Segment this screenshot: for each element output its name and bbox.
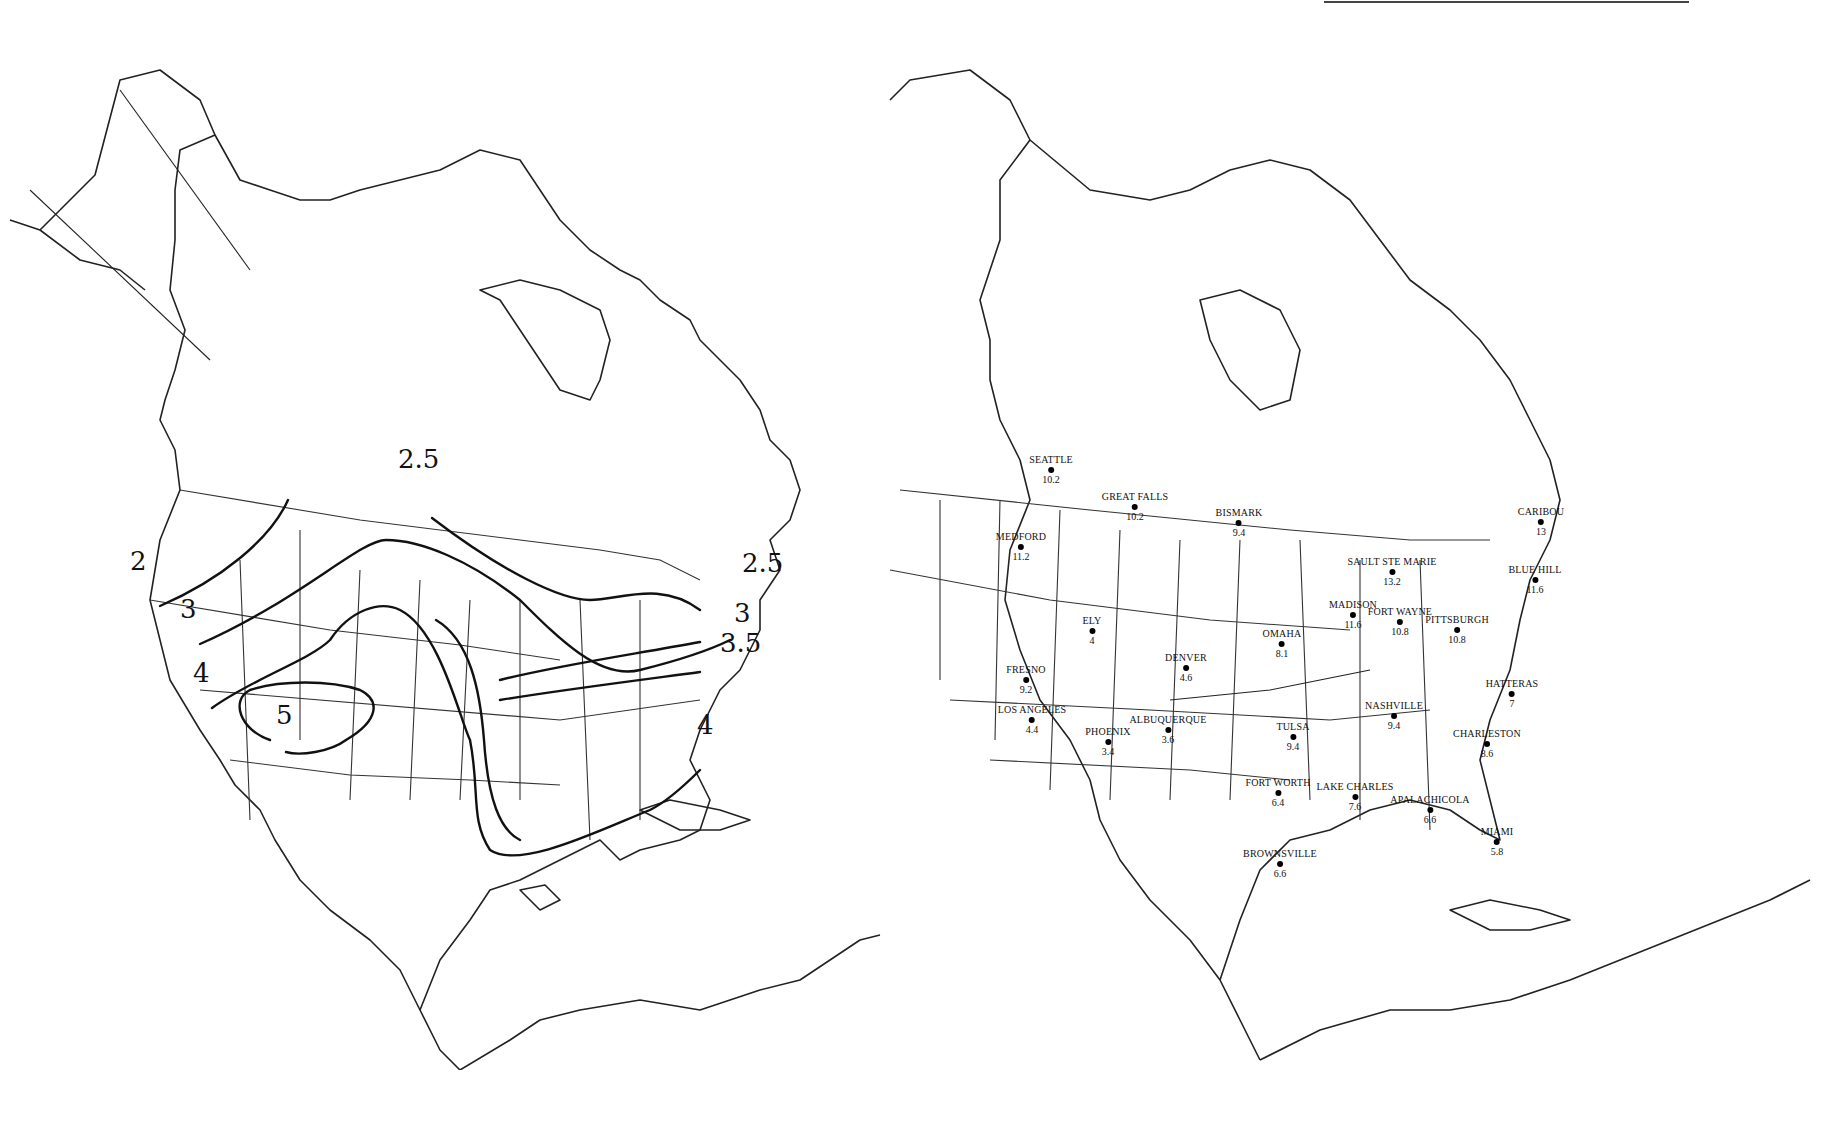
station-value: 4 — [1082, 635, 1101, 647]
station-value: 11.6 — [1508, 584, 1561, 596]
station-marker: BLUE HILL11.6 — [1508, 564, 1561, 596]
station-name: CARIBOU — [1518, 506, 1564, 518]
station-dot-icon — [1048, 467, 1054, 473]
station-marker: LOS ANGELES4.4 — [998, 704, 1067, 736]
station-dot-icon — [1236, 520, 1242, 526]
station-value: 13 — [1518, 526, 1564, 538]
station-marker: SEATTLE10.2 — [1029, 454, 1073, 486]
station-marker: SAULT STE MARIE13.2 — [1347, 556, 1436, 588]
station-dot-icon — [1018, 544, 1024, 550]
station-value: 10.2 — [1029, 474, 1073, 486]
station-name: SAULT STE MARIE — [1347, 556, 1436, 568]
station-name: MIAMI — [1481, 826, 1514, 838]
station-marker: BISMARK9.4 — [1216, 507, 1263, 539]
station-name: CHARLESTON — [1453, 728, 1521, 740]
station-marker: CARIBOU13 — [1518, 506, 1564, 538]
station-dot-icon — [1389, 569, 1395, 575]
station-name: FRESNO — [1006, 664, 1046, 676]
station-dot-icon — [1275, 790, 1281, 796]
station-name: NASHVILLE — [1365, 700, 1423, 712]
station-value: 4.6 — [1165, 672, 1207, 684]
station-marker: BROWNSVILLE6.6 — [1243, 848, 1317, 880]
contour-label-3-5: 3.5 — [720, 630, 761, 656]
station-value: 9.2 — [1006, 684, 1046, 696]
contour-label-4-west: 4 — [193, 660, 210, 686]
station-value: 9.4 — [1216, 527, 1263, 539]
station-name: BISMARK — [1216, 507, 1263, 519]
station-dot-icon — [1352, 794, 1358, 800]
station-name: SEATTLE — [1029, 454, 1073, 466]
station-marker: MIAMI5.8 — [1481, 826, 1514, 858]
station-dot-icon — [1132, 504, 1138, 510]
station-dot-icon — [1484, 741, 1490, 747]
station-dot-icon — [1089, 628, 1095, 634]
station-value: 10.8 — [1368, 626, 1432, 638]
station-value: 4.4 — [998, 724, 1067, 736]
station-marker: NASHVILLE9.4 — [1365, 700, 1423, 732]
station-dot-icon — [1183, 665, 1189, 671]
station-value: 6.6 — [1243, 868, 1317, 880]
top-rule-line — [1324, 1, 1689, 3]
station-dot-icon — [1532, 577, 1538, 583]
contour-label-3-west: 3 — [180, 596, 197, 622]
station-name: PITTSBURGH — [1425, 614, 1489, 626]
station-marker: LAKE CHARLES7.6 — [1316, 781, 1393, 813]
contour-label-5: 5 — [276, 702, 293, 728]
station-value: 10.8 — [1425, 634, 1489, 646]
station-marker: GREAT FALLS10.2 — [1102, 491, 1169, 523]
station-name: MEDFORD — [996, 531, 1046, 543]
station-marker: APALACHICOLA6.6 — [1390, 794, 1469, 826]
station-name: FORT WAYNE — [1368, 606, 1432, 618]
station-value: 7.6 — [1316, 801, 1393, 813]
station-dot-icon — [1277, 861, 1283, 867]
station-name: TULSA — [1276, 721, 1309, 733]
station-dot-icon — [1029, 717, 1035, 723]
station-marker: ELY4 — [1082, 615, 1101, 647]
station-value: 7 — [1486, 698, 1539, 710]
station-name: GREAT FALLS — [1102, 491, 1169, 503]
station-dot-icon — [1165, 727, 1171, 733]
contour-label-2-5-north: 2.5 — [398, 446, 439, 472]
station-name: HATTERAS — [1486, 678, 1539, 690]
station-dot-icon — [1279, 641, 1285, 647]
station-name: BROWNSVILLE — [1243, 848, 1317, 860]
contour-label-4-east: 4 — [697, 712, 714, 738]
station-value: 13.2 — [1347, 576, 1436, 588]
station-name: ELY — [1082, 615, 1101, 627]
station-marker: TULSA9.4 — [1276, 721, 1309, 753]
station-marker: HATTERAS7 — [1486, 678, 1539, 710]
station-marker: OMAHA8.1 — [1263, 628, 1302, 660]
station-name: DENVER — [1165, 652, 1207, 664]
station-name: OMAHA — [1263, 628, 1302, 640]
right-map-outline — [790, 40, 1839, 1070]
contour-label-3-east: 3 — [734, 600, 751, 626]
station-name: LOS ANGELES — [998, 704, 1067, 716]
station-marker: FRESNO9.2 — [1006, 664, 1046, 696]
station-name: APALACHICOLA — [1390, 794, 1469, 806]
station-marker: FORT WORTH6.4 — [1245, 777, 1310, 809]
station-dot-icon — [1509, 691, 1515, 697]
station-dot-icon — [1350, 612, 1356, 618]
station-value: 8.6 — [1453, 748, 1521, 760]
station-value: 6.6 — [1390, 814, 1469, 826]
station-name: ALBUQUERQUE — [1129, 714, 1206, 726]
contour-label-2: 2 — [130, 548, 147, 574]
station-value: 9.4 — [1276, 741, 1309, 753]
station-name: PHOENIX — [1085, 726, 1130, 738]
station-value: 3.4 — [1085, 746, 1130, 758]
station-value: 11.2 — [996, 551, 1046, 563]
station-dot-icon — [1290, 734, 1296, 740]
station-dot-icon — [1494, 839, 1500, 845]
station-value: 6.4 — [1245, 797, 1310, 809]
station-dot-icon — [1538, 519, 1544, 525]
right-station-map — [790, 40, 1839, 1070]
station-marker: FORT WAYNE10.8 — [1368, 606, 1432, 638]
station-value: 9.4 — [1365, 720, 1423, 732]
station-marker: CHARLESTON8.6 — [1453, 728, 1521, 760]
station-marker: ALBUQUERQUE3.6 — [1129, 714, 1206, 746]
station-name: BLUE HILL — [1508, 564, 1561, 576]
station-value: 5.8 — [1481, 846, 1514, 858]
station-dot-icon — [1105, 739, 1111, 745]
station-dot-icon — [1397, 619, 1403, 625]
station-name: FORT WORTH — [1245, 777, 1310, 789]
